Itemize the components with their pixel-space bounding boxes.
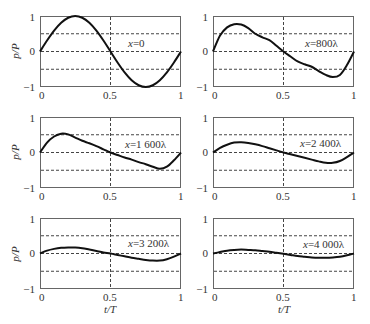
xtick-label: 0 xyxy=(39,190,45,202)
xtick-label: 0.5 xyxy=(103,190,117,202)
xtick-label: 1 xyxy=(351,291,357,303)
ytick-label: 0 xyxy=(182,146,208,158)
subplot-x800: 1 0 −1 0 0.5 1 x=800λ xyxy=(213,16,354,87)
x-axis-label: t/T xyxy=(269,303,299,315)
plot-area xyxy=(213,117,354,188)
subplot-x2400: 1 0 −1 0 0.5 1 x=2 400λ xyxy=(213,117,354,188)
xtick-label: 0 xyxy=(39,89,45,101)
subplot-x0: 1 0 −1 0 0.5 1 x=0 xyxy=(40,16,181,87)
plot-area xyxy=(213,16,354,87)
subplot-x4000: 1 0 −1 0 0.5 1 x=4 000λ xyxy=(213,218,354,289)
plot-area xyxy=(40,117,181,188)
plot-area xyxy=(40,218,181,289)
series-annotation: x=0 xyxy=(128,37,145,49)
ytick-label: −1 xyxy=(182,283,208,295)
xtick-label: 0 xyxy=(39,291,45,303)
x-axis-label: t/T xyxy=(95,303,125,315)
series-annotation: x=2 400λ xyxy=(300,137,341,149)
xtick-label: 0.5 xyxy=(103,89,117,101)
ytick-label: 1 xyxy=(9,213,35,225)
xtick-label: 0.5 xyxy=(103,291,117,303)
subplot-x3200: 1 0 −1 0 0.5 1 x=3 200λ xyxy=(40,218,181,289)
xtick-label: 1 xyxy=(351,89,357,101)
subplot-x1600: 1 0 −1 0 0.5 1 x=1 600λ xyxy=(40,117,181,188)
series-annotation: x=1 600λ xyxy=(125,138,166,150)
figure: 1 0 −1 0 0.5 1 x=0 1 0 −1 0 0.5 1 x=800λ… xyxy=(0,0,370,324)
series-annotation: x=800λ xyxy=(305,37,338,49)
ytick-label: 1 xyxy=(9,11,35,23)
plot-area xyxy=(213,218,354,289)
xtick-label: 0.5 xyxy=(276,89,290,101)
xtick-label: 0 xyxy=(212,89,218,101)
ytick-label: 1 xyxy=(182,11,208,23)
ytick-label: 1 xyxy=(9,112,35,124)
ytick-label: 0 xyxy=(182,45,208,57)
ytick-label: −1 xyxy=(182,182,208,194)
xtick-label: 0.5 xyxy=(276,190,290,202)
plot-area xyxy=(40,16,181,87)
series-annotation: x=3 200λ xyxy=(128,237,169,249)
y-axis-label: p/P xyxy=(9,36,21,66)
xtick-label: 0 xyxy=(212,291,218,303)
series-annotation: x=4 000λ xyxy=(303,238,344,250)
ytick-label: −1 xyxy=(9,182,35,194)
ytick-label: 1 xyxy=(182,213,208,225)
xtick-label: 1 xyxy=(351,190,357,202)
y-axis-label: p/P xyxy=(9,137,21,167)
ytick-label: 1 xyxy=(182,112,208,124)
ytick-label: −1 xyxy=(9,81,35,93)
ytick-label: −1 xyxy=(182,81,208,93)
xtick-label: 0 xyxy=(212,190,218,202)
ytick-label: −1 xyxy=(9,283,35,295)
y-axis-label: p/P xyxy=(9,239,21,269)
xtick-label: 0.5 xyxy=(276,291,290,303)
ytick-label: 0 xyxy=(182,247,208,259)
